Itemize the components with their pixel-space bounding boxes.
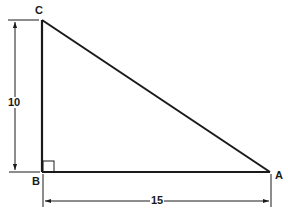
vertex-label-a: A — [275, 170, 283, 181]
triangle-diagram — [0, 0, 288, 214]
dimension-label-horizontal: 15 — [150, 195, 164, 206]
dimension-label-vertical: 10 — [7, 97, 21, 108]
right-angle-marker — [43, 161, 54, 172]
vertex-label-b: B — [32, 176, 40, 187]
side-ca-hypotenuse — [42, 20, 270, 172]
vertex-label-c: C — [35, 5, 43, 16]
